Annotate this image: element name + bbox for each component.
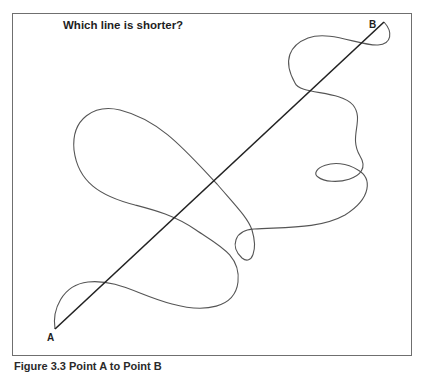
point-b-label: B: [369, 19, 376, 30]
point-a-label: A: [47, 332, 54, 343]
figure-caption: Figure 3.3 Point A to Point B: [14, 360, 162, 372]
straight-line: [55, 22, 384, 329]
